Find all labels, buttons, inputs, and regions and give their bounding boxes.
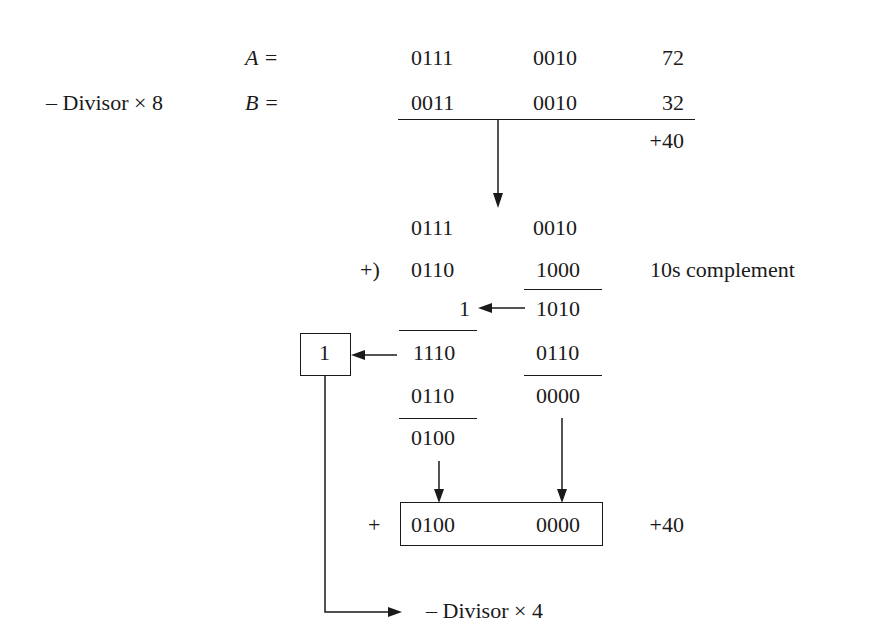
arrowhead-down-icon (557, 489, 567, 503)
arrowhead-left-icon (351, 350, 365, 360)
arrowhead-down-icon (434, 489, 444, 503)
arrowhead-down-icon (493, 193, 503, 208)
arrowhead-right-icon (388, 607, 402, 617)
arrowhead-left-icon (478, 303, 492, 313)
connector-arrows (0, 0, 881, 638)
